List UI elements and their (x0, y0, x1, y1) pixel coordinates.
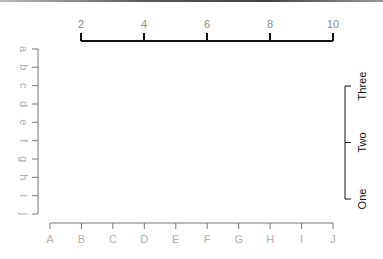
top-axis-tick-label: 10 (327, 18, 339, 30)
left-axis-tick-label: b (18, 64, 30, 70)
left-axis-tick-label: i (18, 194, 30, 196)
top-axis-tick-label: 8 (267, 18, 273, 30)
left-axis-tick-label: a (18, 46, 30, 53)
right-axis-tick-label: Two (356, 132, 368, 152)
top-axis-tick-label: 2 (78, 18, 84, 30)
bottom-axis-tick-label: A (46, 233, 54, 245)
left-axis-tick-label: j (18, 212, 30, 215)
right-axis-tick-label: One (356, 189, 368, 210)
bottom-axis-tick-label: D (140, 233, 148, 245)
left-axis-tick-label: g (18, 156, 30, 162)
top-axis-tick-label: 4 (141, 18, 147, 30)
right-axis: OneTwoThree (345, 72, 368, 210)
left-axis: abcdefghij (18, 46, 38, 215)
right-axis-tick-label: Three (356, 72, 368, 101)
left-axis-tick-label: d (18, 101, 30, 107)
bottom-axis-tick-label: E (172, 233, 179, 245)
bottom-axis-tick-label: J (330, 233, 336, 245)
left-axis-tick-label: h (18, 174, 30, 180)
bottom-axis-tick-label: G (234, 233, 243, 245)
bottom-axis-tick-label: H (266, 233, 274, 245)
left-axis-tick-label: e (18, 119, 30, 125)
bottom-axis-tick-label: B (78, 233, 85, 245)
left-axis-tick-label: f (18, 139, 30, 143)
chart-canvas: 246810 abcdefghij ABCDEFGHIJ OneTwoThree (0, 0, 383, 259)
top-axis: 246810 (78, 18, 339, 41)
bottom-axis-tick-label: C (109, 233, 117, 245)
left-axis-tick-label: c (18, 83, 30, 89)
bottom-axis-tick-label: I (300, 233, 303, 245)
top-axis-tick-label: 6 (204, 18, 210, 30)
bottom-axis-tick-label: F (204, 233, 211, 245)
bottom-axis: ABCDEFGHIJ (46, 223, 335, 245)
